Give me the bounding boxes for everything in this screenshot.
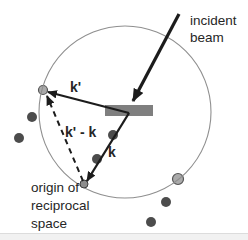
origin-dot xyxy=(80,180,88,188)
origin-label-line2: reciprocal xyxy=(31,198,90,213)
lattice-point xyxy=(146,217,156,227)
incident-beam-label-line2: beam xyxy=(190,30,224,45)
k-prime-label: k' xyxy=(70,79,81,95)
ewald-sphere-diagram: incident beam k' k' - k k origin of reci… xyxy=(0,0,248,240)
lattice-point xyxy=(14,133,24,143)
origin-label-line3: space xyxy=(31,216,67,231)
diagram-svg: incident beam k' k' - k k origin of reci… xyxy=(0,0,248,240)
scattering-vector-label: k' - k xyxy=(65,124,97,140)
footer-strip xyxy=(0,234,248,240)
k-prime-vector xyxy=(48,92,129,113)
lattice-point xyxy=(27,112,37,122)
origin-label-line1: origin of xyxy=(31,180,79,195)
lattice-point xyxy=(161,197,171,207)
k-label: k xyxy=(108,144,116,160)
incident-beam-label-line1: incident xyxy=(190,13,237,28)
